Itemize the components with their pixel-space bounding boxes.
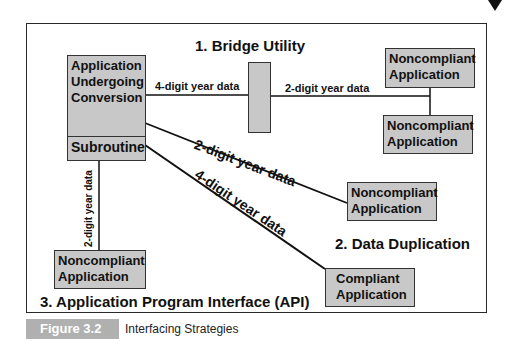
node-subroutine: Subroutine: [67, 136, 146, 161]
node-label-line: Application: [58, 269, 142, 285]
section-label-api: 3. Application Program Interface (API): [40, 293, 310, 310]
node-label-line: Application: [336, 287, 411, 303]
node-noncompliant-bridge-2: Noncompliant Application: [383, 115, 473, 154]
figure-title: Interfacing Strategies: [125, 319, 238, 339]
section-label-duplication: 2. Data Duplication: [335, 235, 470, 252]
node-label: Subroutine: [71, 139, 142, 155]
node-label-line: Noncompliant: [351, 185, 433, 201]
edge-label-app-to-bridge: 4-digit year data: [155, 80, 239, 92]
node-label-line: Noncompliant: [389, 51, 471, 67]
node-label-line: Application: [351, 201, 433, 217]
node-label-line: Undergoing: [71, 74, 142, 90]
node-compliant-application: Compliant Application: [325, 268, 415, 307]
node-label-line: Application: [387, 134, 469, 150]
node-label-line: Conversion: [71, 90, 142, 106]
edge-label-subroutine-to-api: 2-digit year data: [83, 170, 94, 247]
node-label-line: Noncompliant: [58, 253, 142, 269]
node-label-line: Application: [389, 67, 471, 83]
figure-number: Figure 3.2: [26, 319, 119, 339]
node-app-undergoing-conversion: Application Undergoing Conversion: [67, 55, 146, 138]
edge-label-bridge-to-noncompliant: 2-digit year data: [285, 82, 369, 94]
node-noncompliant-api: Noncompliant Application: [54, 250, 146, 289]
node-label-line: Compliant: [336, 271, 411, 287]
section-label-bridge: 1. Bridge Utility: [195, 37, 305, 54]
node-label-line: Noncompliant: [387, 118, 469, 134]
node-noncompliant-bridge-1: Noncompliant Application: [385, 48, 475, 88]
node-label-line: Application: [71, 58, 142, 74]
node-bridge-utility: [248, 62, 271, 133]
node-noncompliant-duplication: Noncompliant Application: [347, 182, 437, 221]
